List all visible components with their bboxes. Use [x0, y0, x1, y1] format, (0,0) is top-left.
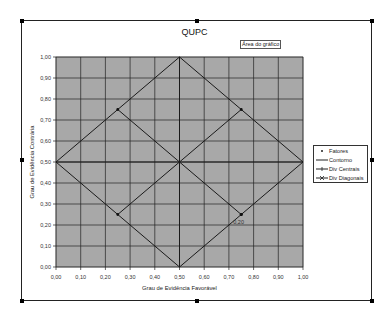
line-icon — [316, 156, 328, 164]
x-tick-label: 0,90 — [273, 274, 284, 280]
dot-marker-icon — [316, 147, 328, 155]
x-tick-label: 0,50 — [174, 274, 185, 280]
line-star-marker-icon — [316, 174, 328, 182]
x-axis-label[interactable]: Grau de Evidência Favorável — [142, 285, 217, 291]
diagonal-marker[interactable] — [116, 213, 119, 216]
legend-item-div-diagonais[interactable]: Div Diagonais — [314, 174, 367, 182]
y-tick-label: 0,70 — [40, 117, 51, 123]
legend-label: Fatores — [329, 148, 348, 154]
data-label: 0,20 — [233, 219, 244, 225]
diagonal-marker[interactable] — [116, 108, 119, 111]
legend-label: Div Centrais — [329, 166, 359, 172]
x-tick-label: 0,10 — [75, 274, 86, 280]
x-tick-label: 0,40 — [149, 274, 160, 280]
y-tick-label: 0,00 — [40, 264, 51, 270]
y-tick-label: 0,60 — [40, 138, 51, 144]
x-tick-label: 0,60 — [199, 274, 210, 280]
y-tick-label: 0,30 — [40, 201, 51, 207]
x-tick-label: 0,80 — [248, 274, 259, 280]
y-tick-label: 0,90 — [40, 75, 51, 81]
x-tick-label: 0,20 — [100, 274, 111, 280]
x-tick-label: 0,00 — [51, 274, 62, 280]
x-tick-label: 0,70 — [224, 274, 235, 280]
diagonal-marker[interactable] — [240, 108, 243, 111]
y-tick-label: 0,10 — [40, 243, 51, 249]
legend-label: Contorno — [329, 157, 352, 163]
y-tick-label: 0,80 — [40, 96, 51, 102]
legend[interactable]: Fatores Contorno Div Centrais Div Diagon… — [313, 145, 368, 183]
fatores-point[interactable] — [240, 213, 243, 216]
legend-item-contorno[interactable]: Contorno — [314, 156, 367, 164]
y-tick-label: 1,00 — [40, 54, 51, 60]
x-tick-label: 0,30 — [125, 274, 136, 280]
y-tick-label: 0,50 — [40, 159, 51, 165]
line-marker-icon — [316, 165, 328, 173]
legend-label: Div Diagonais — [329, 175, 364, 181]
legend-item-fatores[interactable]: Fatores — [314, 147, 367, 155]
y-axis-label[interactable]: Grau de Evidência Contrária — [29, 125, 35, 199]
y-tick-label: 0,20 — [40, 222, 51, 228]
y-tick-label: 0,40 — [40, 180, 51, 186]
x-tick-label: 1,00 — [298, 274, 309, 280]
legend-item-div-centrais[interactable]: Div Centrais — [314, 165, 367, 173]
